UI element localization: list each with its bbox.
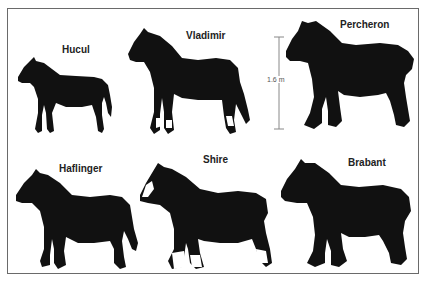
- horse-silhouette-vladimir: [126, 28, 256, 136]
- scale-bar-label: 1.6 m: [266, 76, 286, 83]
- horse-silhouette-haflinger: [14, 165, 138, 269]
- horse-silhouette-brabant: [279, 155, 419, 269]
- horse-silhouette-hucul: [16, 55, 116, 135]
- breed-label-hucul: Hucul: [62, 44, 90, 55]
- horse-silhouette-percheron: [284, 17, 424, 131]
- horse-silhouette-shire: [138, 163, 274, 271]
